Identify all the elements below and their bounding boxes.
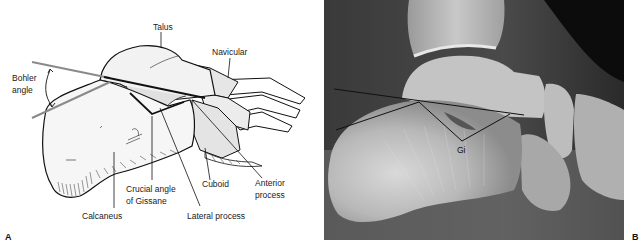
panel-letter-a: A xyxy=(5,232,12,242)
label-lateral-process: Lateral process xyxy=(187,211,245,221)
label-bohler-angle-2: angle xyxy=(12,85,33,95)
panel-b-radiograph: Gi xyxy=(324,0,624,240)
label-crucial-angle-2: of Gissane xyxy=(126,196,167,206)
calcaneus-drawing xyxy=(0,0,320,247)
label-anterior-process-2: process xyxy=(255,190,285,200)
xray-image xyxy=(324,0,624,240)
label-bohler-angle-1: Bohler xyxy=(12,73,37,83)
label-calcaneus: Calcaneus xyxy=(82,211,122,221)
label-anterior-process-1: Anterior xyxy=(255,178,285,188)
label-crucial-angle-1: Crucial angle xyxy=(126,184,176,194)
panel-letter-b: B xyxy=(632,232,639,242)
label-cuboid: Cuboid xyxy=(202,179,229,189)
label-talus: Talus xyxy=(153,22,173,32)
label-gissane-angle: Gi xyxy=(457,145,466,155)
panel-a-drawing: Talus Navicular Bohler angle Crucial ang… xyxy=(0,0,320,247)
label-navicular: Navicular xyxy=(212,47,247,57)
